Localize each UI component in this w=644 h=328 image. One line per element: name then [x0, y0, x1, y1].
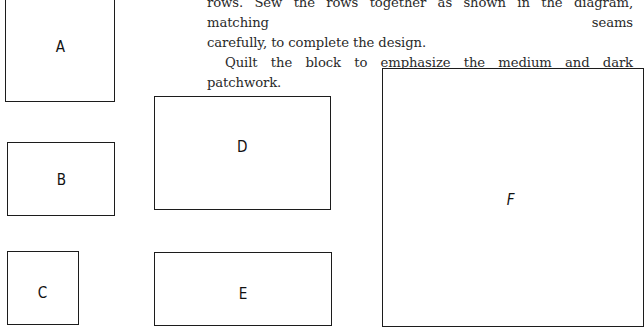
piece-a: A — [5, 0, 115, 102]
piece-c-label: C — [38, 283, 47, 302]
piece-f-label: F — [507, 190, 515, 209]
piece-c: C — [7, 251, 79, 325]
instruction-line-2: carefully, to complete the design. — [207, 33, 633, 53]
piece-d: D — [154, 96, 331, 210]
piece-b: B — [7, 142, 115, 216]
piece-e: E — [154, 252, 332, 326]
piece-b-label: B — [56, 170, 65, 189]
instruction-line-1: rows. Sew the rows together as shown in … — [207, 0, 633, 33]
piece-d-label: D — [237, 137, 247, 156]
piece-a-label: A — [55, 37, 64, 56]
piece-e-label: E — [239, 284, 248, 303]
piece-f: F — [382, 68, 644, 327]
